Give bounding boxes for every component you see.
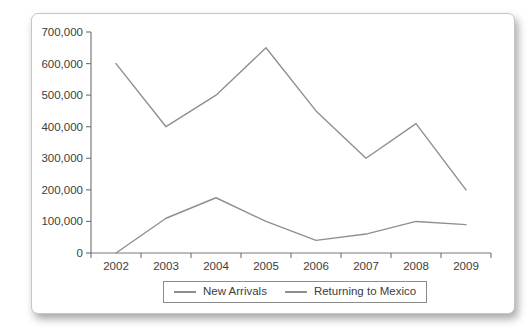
y-tick-label: 300,000 <box>41 152 83 164</box>
y-tick-label: 100,000 <box>41 215 83 227</box>
x-tick-label: 2009 <box>453 260 479 272</box>
y-tick-label: 0 <box>77 247 83 259</box>
series-line-returning-to-mexico <box>116 198 466 253</box>
legend-label-returning-to-mexico: Returning to Mexico <box>314 286 416 298</box>
y-tick-label: 500,000 <box>41 89 83 101</box>
x-tick-label: 2005 <box>253 260 279 272</box>
legend-label-new-arrivals: New Arrivals <box>203 286 267 298</box>
x-tick-label: 2004 <box>203 260 229 272</box>
y-tick-label: 400,000 <box>41 121 83 133</box>
x-tick-label: 2006 <box>303 260 329 272</box>
y-tick-label: 700,000 <box>41 26 83 38</box>
figure-page: 0100,000200,000300,000400,000500,000600,… <box>0 0 532 336</box>
y-tick-label: 600,000 <box>41 58 83 70</box>
x-tick-label: 2002 <box>103 260 129 272</box>
legend: New Arrivals Returning to Mexico <box>163 281 427 303</box>
series-line-new-arrivals <box>116 48 466 190</box>
returning-to-mexico-line-swatch <box>285 291 307 293</box>
x-tick-label: 2007 <box>353 260 379 272</box>
chart-panel: 0100,000200,000300,000400,000500,000600,… <box>31 13 515 314</box>
x-tick-label: 2003 <box>153 260 179 272</box>
new-arrivals-line-swatch <box>174 291 196 293</box>
migration-line-chart: 0100,000200,000300,000400,000500,000600,… <box>32 14 514 313</box>
x-tick-label: 2008 <box>403 260 429 272</box>
legend-item-new-arrivals: New Arrivals <box>174 286 267 298</box>
y-tick-label: 200,000 <box>41 184 83 196</box>
legend-item-returning-to-mexico: Returning to Mexico <box>285 286 416 298</box>
